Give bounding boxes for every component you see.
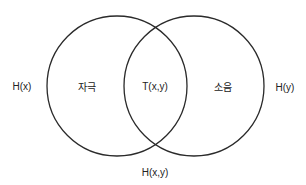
label-noise: 소음 [214, 79, 232, 94]
venn-diagram: H(x) 자극 T(x,y) 소음 H(y) H(x,y) [0, 0, 306, 185]
label-stimulus: 자극 [78, 79, 96, 94]
label-hy: H(y) [276, 82, 295, 93]
venn-circles [0, 0, 306, 185]
label-hxy: H(x,y) [142, 167, 169, 178]
label-hx: H(x) [13, 81, 32, 92]
label-txy: T(x,y) [142, 81, 168, 92]
